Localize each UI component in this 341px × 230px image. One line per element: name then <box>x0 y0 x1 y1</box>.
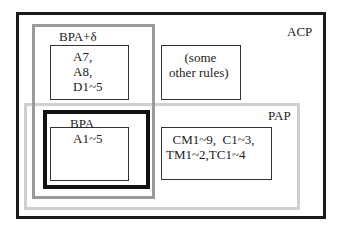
bpa-delta-label: BPA+δ <box>59 29 97 44</box>
bpa-label: BPA <box>70 116 94 131</box>
pap-label: PAP <box>268 108 291 123</box>
rules-text-other: (some other rules) <box>169 50 229 80</box>
rules-text-cm-c-tm-tc: CM1~9, C1~3, TM1~2,TC1~4 <box>166 132 254 162</box>
rules-text-a1: A1~5 <box>73 131 102 146</box>
acp-label: ACP <box>287 24 312 39</box>
rules-text-a7-a8-d: A7, A8, D1~5 <box>73 49 102 94</box>
